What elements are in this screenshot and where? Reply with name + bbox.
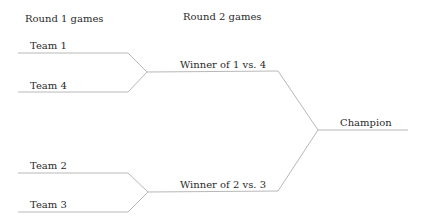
round-1-header: Round 1 games xyxy=(25,13,103,25)
team-label: Team 1 xyxy=(30,40,67,52)
round-2-header: Round 2 games xyxy=(183,11,261,23)
team-label: Team 2 xyxy=(30,160,67,172)
semifinal-label: Winner of 1 vs. 4 xyxy=(180,59,266,71)
champion-label: Champion xyxy=(340,117,392,129)
bracket-line-semifinal-1 xyxy=(147,71,318,130)
bracket-line-team-2 xyxy=(18,173,148,192)
team-label: Team 4 xyxy=(30,80,67,92)
bracket-line-team-1 xyxy=(18,53,147,72)
semifinal-label: Winner of 2 vs. 3 xyxy=(180,179,266,191)
team-label: Team 3 xyxy=(30,199,67,211)
